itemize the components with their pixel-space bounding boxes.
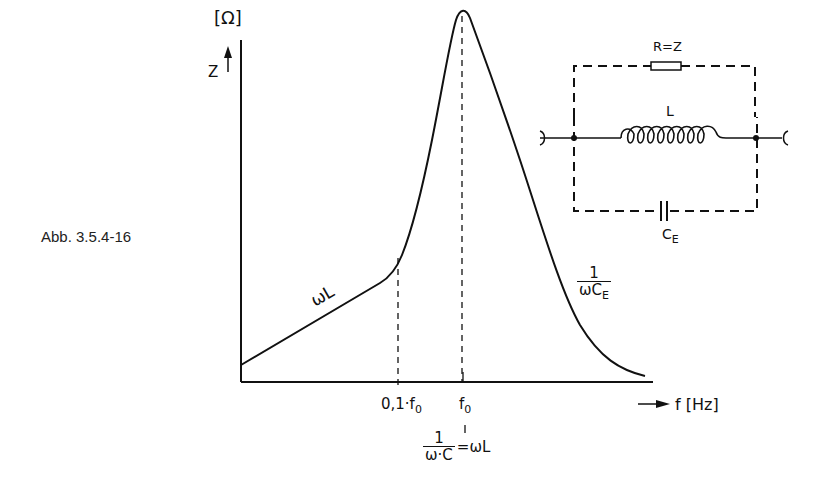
x-axis-unit: [Hz]: [686, 395, 719, 414]
tick-label-0.1f0: 0,1·f0: [381, 395, 422, 416]
y-arrowhead-icon: [224, 46, 232, 58]
tick-0.1f0-text: 0,1·f: [381, 395, 415, 413]
inductor-icon: [621, 126, 726, 143]
label-inv-num: 1: [587, 266, 601, 281]
label-inv-omega-ce: 1 ωCE: [577, 264, 611, 301]
inductor-label: L: [666, 103, 674, 119]
capacitor-label-text: C: [662, 226, 672, 242]
resonance-den: ω·C: [423, 446, 455, 463]
resonance-rhs: =ωL: [457, 438, 491, 456]
equivalent-circuit: [540, 62, 788, 221]
tick-f0-sub: 0: [464, 403, 471, 416]
tick-label-f0: f0: [459, 395, 471, 416]
label-inv-den: ωC: [579, 281, 602, 299]
resonance-num: 1: [432, 431, 446, 446]
tick-0.1f0-sub: 0: [415, 403, 422, 416]
y-axis-symbol: Z: [208, 63, 218, 81]
capacitor-label: CE: [662, 226, 679, 246]
resistor-icon: [651, 62, 681, 70]
resistor-label: R=Z: [653, 39, 682, 54]
x-axis-symbol: f: [675, 395, 681, 414]
figure-caption: Abb. 3.5.4-16: [41, 228, 131, 245]
resonance-condition: 1 ω·C =ωL: [423, 431, 490, 463]
capacitor-label-sub: E: [672, 233, 679, 246]
label-inv-sub: E: [602, 289, 609, 302]
node-right: [753, 135, 759, 141]
node-left: [571, 135, 577, 141]
y-axis-unit: [Ω]: [214, 7, 242, 28]
x-arrowhead-icon: [656, 400, 670, 408]
x-axis-label: f [Hz]: [675, 395, 719, 414]
